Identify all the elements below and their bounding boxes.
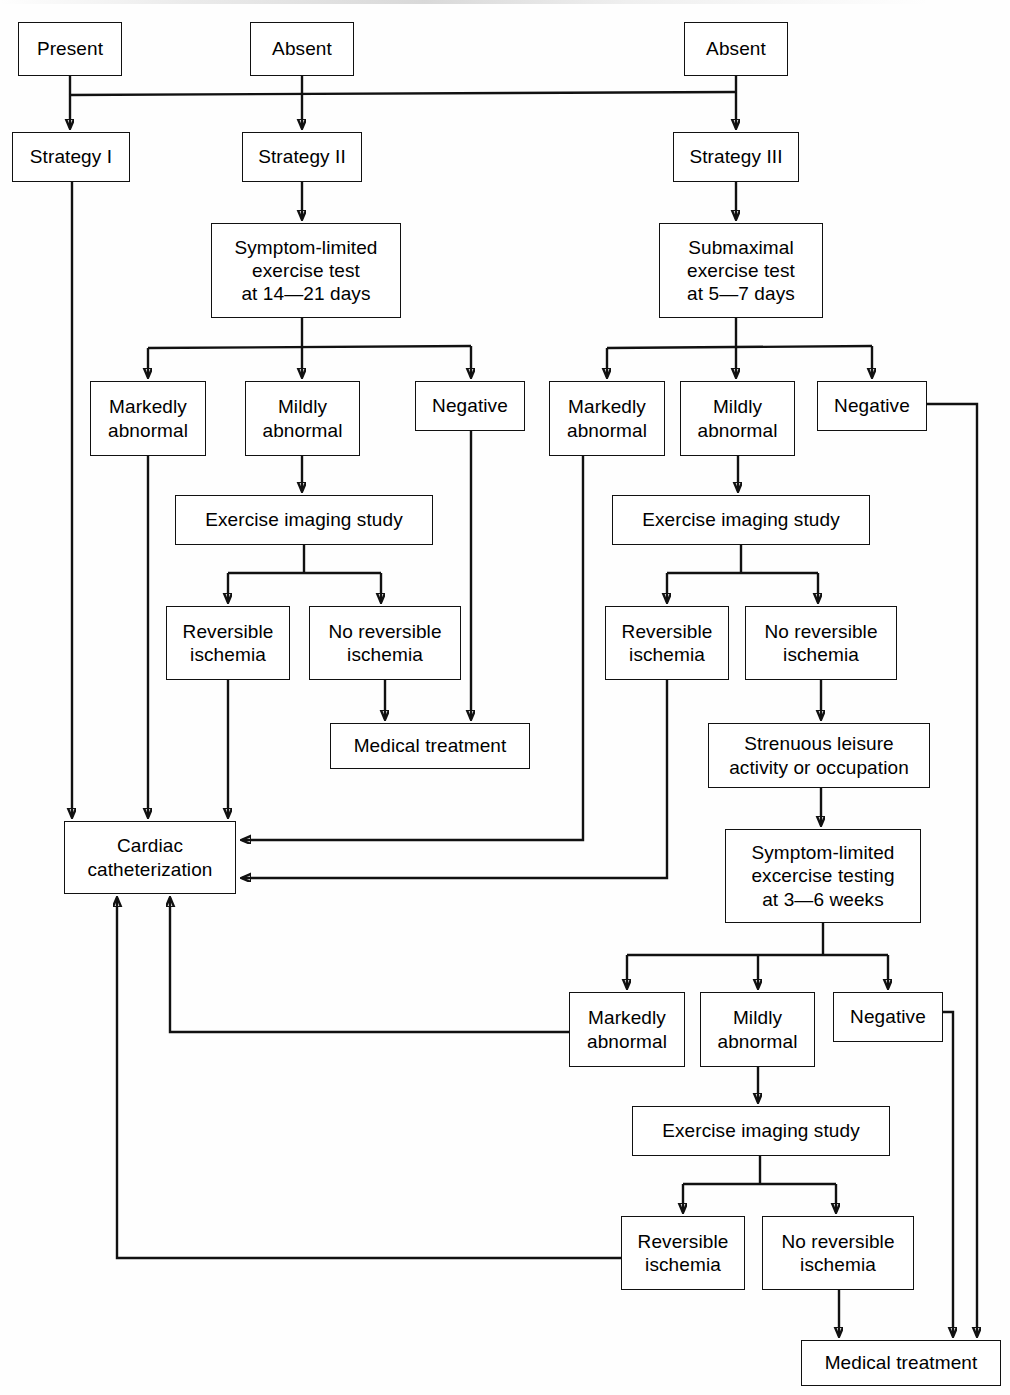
node-negative-followup[interactable]: Negative xyxy=(833,992,943,1042)
edge-eis2-branch xyxy=(228,545,381,602)
node-medical-treatment-followup[interactable]: Medical treatment xyxy=(801,1340,1001,1386)
edge-eis4-branch xyxy=(683,1156,836,1212)
node-symptom-limited-testing-3-6-weeks[interactable]: Symptom-limited excercise testing at 3—6… xyxy=(725,829,921,923)
edge-eis3-branch xyxy=(667,545,818,602)
node-reversible-ischemia-followup[interactable]: Reversible ischemia xyxy=(621,1216,745,1290)
node-mildly-abnormal-strategy3[interactable]: Mildly abnormal xyxy=(680,381,795,456)
node-mildly-abnormal-strategy2[interactable]: Mildly abnormal xyxy=(245,381,360,456)
node-absent-strategy2[interactable]: Absent xyxy=(250,22,354,76)
edge-top-horizontal-bus xyxy=(69,92,737,95)
node-markedly-abnormal-strategy3[interactable]: Markedly abnormal xyxy=(549,381,665,456)
edge-symlimited14-branch xyxy=(148,318,471,377)
node-mildly-abnormal-followup[interactable]: Mildly abnormal xyxy=(700,992,815,1067)
node-present[interactable]: Present xyxy=(18,22,122,76)
node-negative-strategy2[interactable]: Negative xyxy=(415,381,525,431)
node-no-reversible-ischemia-followup[interactable]: No reversible ischemia xyxy=(762,1216,914,1290)
node-medical-treatment-strategy2[interactable]: Medical treatment xyxy=(330,723,530,769)
edge-revisch4-to-cardiaccath xyxy=(117,898,621,1258)
edge-submaximal-branch xyxy=(607,318,872,377)
edge-negative4-to-medtreat4 xyxy=(943,1012,953,1336)
edge-symlimited3-branch xyxy=(627,923,888,988)
node-absent-strategy3[interactable]: Absent xyxy=(684,22,788,76)
node-markedly-abnormal-followup[interactable]: Markedly abnormal xyxy=(569,992,685,1067)
node-submaximal-test-5-7-days[interactable]: Submaximal exercise test at 5—7 days xyxy=(659,223,823,318)
node-strenuous-leisure-activity[interactable]: Strenuous leisure activity or occupation xyxy=(708,723,930,788)
node-exercise-imaging-study-strategy3[interactable]: Exercise imaging study xyxy=(612,495,870,545)
node-markedly-abnormal-strategy2[interactable]: Markedly abnormal xyxy=(90,381,206,456)
node-no-reversible-ischemia-strategy3[interactable]: No reversible ischemia xyxy=(745,606,897,680)
node-symptom-limited-test-14-21-days[interactable]: Symptom-limited exercise test at 14—21 d… xyxy=(211,223,401,318)
node-reversible-ischemia-strategy2[interactable]: Reversible ischemia xyxy=(166,606,290,680)
edge-markabn4-to-cardiaccath xyxy=(170,898,569,1032)
node-exercise-imaging-study-followup[interactable]: Exercise imaging study xyxy=(632,1106,890,1156)
node-negative-strategy3[interactable]: Negative xyxy=(817,381,927,431)
node-cardiac-catheterization[interactable]: Cardiac catheterization xyxy=(64,821,236,894)
node-no-reversible-ischemia-strategy2[interactable]: No reversible ischemia xyxy=(309,606,461,680)
node-strategy-3[interactable]: Strategy III xyxy=(673,132,799,182)
node-strategy-2[interactable]: Strategy II xyxy=(242,132,362,182)
node-strategy-1[interactable]: Strategy I xyxy=(12,132,130,182)
node-exercise-imaging-study-strategy2[interactable]: Exercise imaging study xyxy=(175,495,433,545)
flowchart-canvas: Present Absent Absent Strategy I Strateg… xyxy=(0,0,1010,1395)
connector-layer xyxy=(0,0,1010,1395)
edge-revisch3-to-cardiaccath xyxy=(242,680,667,878)
node-reversible-ischemia-strategy3[interactable]: Reversible ischemia xyxy=(605,606,729,680)
